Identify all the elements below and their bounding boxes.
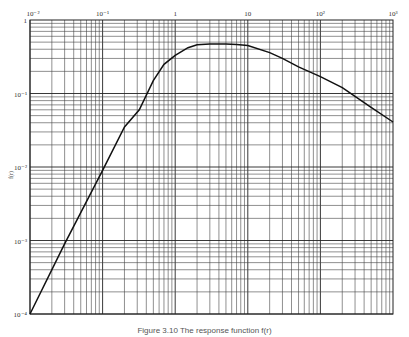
x-tick-label: 1 [173, 10, 177, 18]
x-tick-label: 10³ [388, 10, 397, 18]
x-tick-label: 10 [244, 10, 252, 18]
grid-lines [30, 20, 393, 314]
figure-caption: Figure 3.10 The response function f(r) [0, 326, 409, 335]
x-tick-label: 10² [316, 10, 325, 18]
y-axis-tick-labels: 110⁻¹10⁻²10⁻³10⁻⁴ [14, 17, 28, 319]
x-axis-tick-labels: 10⁻²10⁻¹11010²10³ [26, 10, 397, 18]
chart: 10⁻²10⁻¹11010²10³ 110⁻¹10⁻²10⁻³10⁻⁴ f(r) [0, 0, 409, 337]
x-tick-label: 10⁻¹ [96, 10, 109, 18]
y-tick-label: 10⁻⁴ [14, 311, 28, 319]
x-tick-label: 10⁻² [26, 10, 39, 18]
y-axis-label: f(r) [8, 171, 15, 179]
y-tick-label: 10⁻¹ [14, 91, 27, 99]
y-tick-label: 10⁻³ [14, 238, 27, 246]
y-tick-label: 1 [24, 17, 28, 25]
data-curve [30, 44, 393, 314]
y-tick-label: 10⁻² [14, 164, 27, 172]
